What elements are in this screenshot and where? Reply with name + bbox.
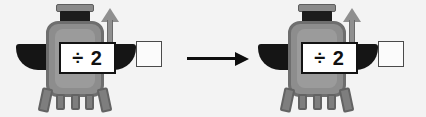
robot-leg-1-left — [56, 94, 65, 110]
operation-label-right: ÷ 2 — [301, 42, 358, 74]
answer-box-left[interactable] — [136, 41, 162, 67]
function-machine-scene: ÷ 2 ÷ — [0, 0, 426, 117]
robot-wing-left-left — [16, 44, 46, 70]
operation-label-left: ÷ 2 — [59, 42, 116, 74]
robot-wing-left-right — [258, 44, 288, 70]
flow-arrow-icon — [187, 52, 249, 66]
robot-leg-1-right — [298, 94, 307, 110]
function-machine-robot-right: ÷ 2 — [280, 4, 356, 114]
machine-group-right: ÷ 2 — [250, 0, 420, 117]
function-machine-robot-left: ÷ 2 — [38, 4, 114, 114]
answer-box-right[interactable] — [378, 41, 404, 67]
robot-leg-outer-right-right — [339, 87, 355, 113]
robot-leg-outer-left-right — [280, 87, 296, 113]
robot-leg-2-right — [313, 94, 322, 110]
robot-leg-2-left — [71, 94, 80, 110]
flow-arrow-line — [187, 57, 237, 60]
robot-leg-outer-left-left — [38, 87, 54, 113]
flow-arrow-tip — [235, 52, 249, 66]
machine-group-left: ÷ 2 — [8, 0, 178, 117]
robot-leg-outer-right-left — [97, 87, 113, 113]
robot-leg-3-left — [85, 94, 94, 110]
robot-leg-3-right — [327, 94, 336, 110]
